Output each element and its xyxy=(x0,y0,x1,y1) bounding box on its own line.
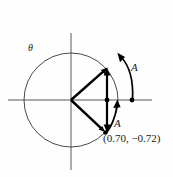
phasor-vector-down xyxy=(71,100,102,129)
rotation-arc-lower-arrowhead xyxy=(113,100,120,109)
projection-point-dot xyxy=(105,98,110,103)
coordinate-readout-label: (0.70, −0.72) xyxy=(103,133,161,144)
theta-angle-label: θ xyxy=(28,43,33,53)
phasor-vector-up xyxy=(71,71,104,100)
unit-circle-diagram-svg xyxy=(0,0,173,177)
amplitude-label-upper: A xyxy=(131,62,138,73)
figure-container: θ A A (0.70, −0.72) xyxy=(0,0,173,177)
amplitude-label-lower: A xyxy=(114,118,121,129)
